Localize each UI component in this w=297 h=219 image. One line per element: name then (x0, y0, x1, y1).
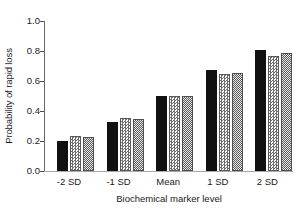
y-tick-mark (40, 141, 44, 142)
plot-area (45, 21, 293, 171)
y-tick-mark (40, 51, 44, 52)
y-tick-mark (40, 111, 44, 112)
y-tick-mark (40, 21, 44, 22)
bar-series-2-4 (268, 56, 279, 171)
bar-series-2-2 (169, 96, 180, 171)
y-tick-label: 1.0 (16, 16, 40, 26)
bar-series-3-4 (281, 53, 292, 171)
x-tick-label: -2 SD (47, 176, 91, 188)
bar-series-2-0 (70, 136, 81, 171)
bar-series-1-2 (156, 96, 167, 171)
bar-series-1-4 (255, 50, 266, 171)
y-tick-mark (40, 81, 44, 82)
x-tick-label: 1 SD (196, 176, 240, 188)
x-axis-tick-labels: -2 SD-1 SDMean1 SD2 SD (45, 176, 293, 190)
bar-group (107, 21, 148, 171)
y-tick-mark (40, 171, 44, 172)
y-tick-label: 0.8 (16, 46, 40, 56)
y-tick-label: 0.2 (16, 136, 40, 146)
bar-series-1-1 (107, 122, 118, 171)
y-tick-label: 0.6 (16, 76, 40, 86)
x-axis-line (44, 171, 293, 172)
y-tick-label: 0.0 (16, 166, 40, 176)
y-axis-tick-labels: 0.00.20.40.60.81.0 (14, 0, 40, 219)
bar-group (156, 21, 197, 171)
bar-series-3-0 (83, 137, 94, 171)
bar-series-2-3 (219, 74, 230, 171)
bar-group (206, 21, 247, 171)
bar-series-1-0 (57, 141, 68, 171)
bar-series-1-3 (206, 70, 217, 171)
bar-series-3-2 (182, 96, 193, 171)
bar-series-3-1 (133, 119, 144, 172)
x-tick-label: Mean (146, 176, 190, 188)
x-tick-label: 2 SD (245, 176, 289, 188)
x-axis-title: Biochemical marker level (45, 193, 293, 205)
x-tick-label: -1 SD (97, 176, 141, 188)
y-tick-label: 0.4 (16, 106, 40, 116)
bar-series-3-3 (232, 73, 243, 171)
bar-group (255, 21, 296, 171)
bar-chart-figure: Probability of rapid loss 0.00.20.40.60.… (0, 0, 297, 219)
bar-series-2-1 (120, 118, 131, 171)
bar-group (57, 21, 98, 171)
